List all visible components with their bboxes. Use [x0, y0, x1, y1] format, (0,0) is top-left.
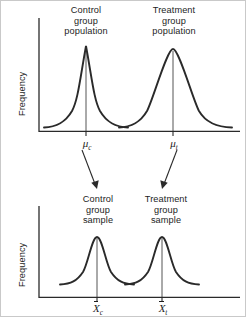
control-arrow-head — [91, 180, 98, 189]
treatment-sample-tick-label: Xt — [152, 302, 174, 317]
treatment-population-curve — [119, 49, 232, 128]
control-population-label: Control group population — [46, 5, 126, 37]
control-population-tick-label: μc — [76, 137, 98, 152]
treatment-arrow-shaft — [164, 150, 177, 184]
treatment-arrow-head — [160, 180, 167, 189]
transition-arrows — [82, 150, 177, 189]
statistics-figure: Control group population Treatment group… — [0, 0, 246, 317]
treatment-population-label: Treatment group population — [133, 5, 215, 37]
treatment-population-tick-label: μt — [163, 137, 185, 152]
control-arrow-shaft — [82, 150, 95, 184]
bottom-y-axis-label: Frequency — [17, 243, 27, 287]
treatment-sample-label: Treatment group sample — [125, 194, 207, 226]
top-y-axis-label: Frequency — [17, 72, 27, 116]
figure-canvas — [1, 1, 246, 317]
control-sample-tick-label: Xc — [87, 302, 109, 317]
